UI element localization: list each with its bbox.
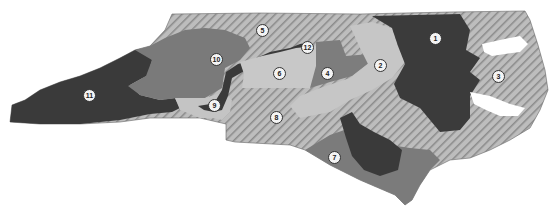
label-district-8: 8 <box>270 111 283 124</box>
label-district-4: 4 <box>321 67 334 80</box>
label-district-9: 9 <box>208 99 221 112</box>
label-district-6: 6 <box>273 67 286 80</box>
label-district-3: 3 <box>492 70 505 83</box>
label-district-7: 7 <box>328 151 341 164</box>
label-district-5: 5 <box>256 24 269 37</box>
label-district-11: 11 <box>83 89 96 102</box>
label-district-12: 12 <box>301 41 314 54</box>
label-district-2: 2 <box>374 59 387 72</box>
north-carolina-district-map <box>0 0 559 215</box>
label-district-10: 10 <box>210 53 223 66</box>
label-district-1: 1 <box>429 32 442 45</box>
